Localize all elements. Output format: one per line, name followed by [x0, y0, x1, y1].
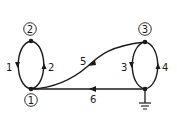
ground-icon: [139, 89, 151, 109]
edge-3-arrow-icon: [129, 62, 134, 68]
graph-diagram: 1 2 3 4 5 6 2 1 3: [0, 0, 177, 115]
node-2-label: 2: [24, 23, 37, 36]
edge-3-label: 3: [121, 62, 127, 73]
node-1-dot: [29, 87, 34, 92]
edge-5-label: 5: [80, 56, 86, 67]
node-2-dot: [29, 39, 34, 44]
edge-1-label: 1: [6, 62, 12, 73]
edge-3: [132, 42, 145, 89]
edge-1: [18, 41, 31, 89]
edge-6-label: 6: [90, 94, 96, 105]
node-1-label: 1: [25, 94, 38, 107]
edge-4-label: 4: [162, 62, 168, 73]
svg-text:3: 3: [142, 24, 148, 35]
node-ground-dot: [143, 87, 148, 92]
svg-text:1: 1: [28, 95, 34, 106]
edge-6-arrow-icon: [89, 86, 96, 92]
edge-4-arrow-icon: [156, 63, 161, 69]
edge-4: [145, 42, 158, 89]
node-3-label: 3: [139, 23, 152, 36]
edge-2-arrow-icon: [42, 63, 47, 69]
svg-text:2: 2: [27, 24, 33, 35]
edge-2-label: 2: [48, 62, 54, 73]
edge-1-arrow-icon: [15, 62, 20, 68]
edge-2: [31, 41, 44, 89]
node-3-dot: [143, 40, 148, 45]
edge-5-arrow-icon: [88, 60, 96, 66]
